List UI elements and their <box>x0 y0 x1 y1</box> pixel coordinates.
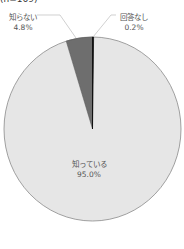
label-unknown: 知らない 4.8% <box>4 13 42 33</box>
leader-line-no-answer <box>93 15 116 37</box>
leader-line-unknown <box>37 15 76 38</box>
label-known-name: 知っている <box>64 160 114 170</box>
label-no-answer-pct: 0.2% <box>114 23 154 33</box>
label-no-answer-name: 回答なし <box>114 13 154 23</box>
label-known-pct: 95.0% <box>64 170 114 180</box>
label-unknown-pct: 4.8% <box>4 23 42 33</box>
label-no-answer: 回答なし 0.2% <box>114 13 154 33</box>
pie-chart <box>0 0 184 249</box>
label-known: 知っている 95.0% <box>64 160 114 180</box>
label-unknown-name: 知らない <box>4 13 42 23</box>
